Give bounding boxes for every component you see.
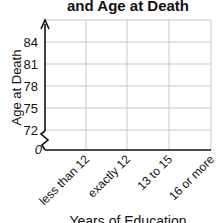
grid-lines [45,20,211,150]
y-axis-label: Age at Death [9,38,24,138]
x-tick: 16 or more [166,152,217,203]
x-tick: 13 to 15 [135,152,176,193]
y-tick: 81 [24,57,38,72]
y-tick: 84 [24,35,38,50]
chart-plot: 84 81 78 75 72 0 less than 12 exactly 12… [0,0,220,223]
y-tick: 78 [24,79,38,94]
x-axis-label: Years of Education [0,213,220,223]
y-tick-labels: 84 81 78 75 72 0 [24,35,43,157]
y-tick: 72 [24,123,38,138]
y-tick: 0 [35,142,43,157]
x-tick: less than 12 [36,152,92,208]
y-tick: 75 [24,101,38,116]
x-tick: exactly 12 [85,152,133,200]
x-tick-labels: less than 12 exactly 12 13 to 15 16 or m… [36,152,217,208]
